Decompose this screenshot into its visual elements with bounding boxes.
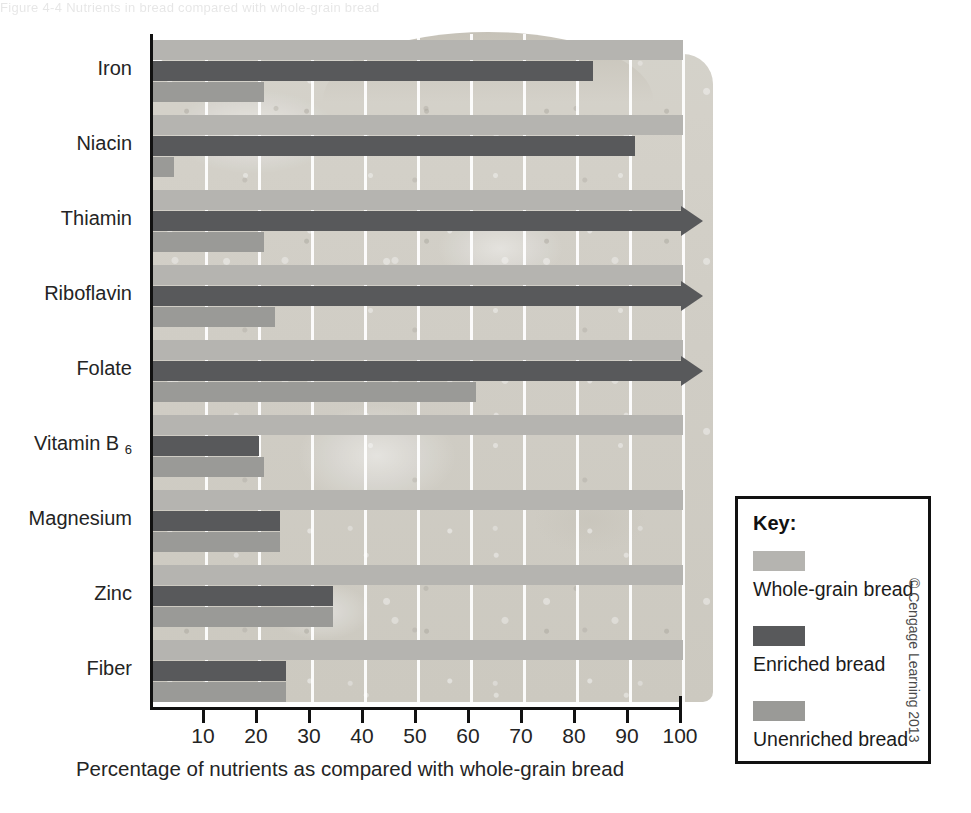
- bar-zinc-enriched-bread: [153, 586, 333, 606]
- bar-iron-whole-grain-bread: [153, 40, 683, 60]
- bar-vitamin-b6-unenriched-bread: [153, 457, 264, 477]
- x-tick-100: [679, 710, 682, 723]
- copyright-credit: © Cengage Learning 2013: [906, 578, 922, 742]
- legend-swatch-whole-grain: [753, 551, 805, 571]
- legend-swatch-enriched: [753, 626, 805, 646]
- category-label-niacin: Niacin: [76, 132, 132, 155]
- bar-iron-enriched-bread: [153, 61, 593, 81]
- x-tick-40: [361, 710, 364, 723]
- bar-thiamin-whole-grain-bread: [153, 190, 683, 210]
- legend-label-enriched: Enriched bread: [753, 653, 923, 676]
- x-tick-label-90: 90: [615, 724, 638, 748]
- x-axis-title: Percentage of nutrients as compared with…: [0, 757, 700, 781]
- x-tick-label-80: 80: [562, 724, 585, 748]
- bar-fiber-enriched-bread: [153, 661, 286, 681]
- legend-item-enriched-bread[interactable]: Enriched bread: [753, 626, 923, 676]
- x-tick-90: [626, 710, 629, 723]
- legend-label-whole-grain: Whole-grain bread: [753, 578, 923, 601]
- bar-riboflavin-unenriched-bread: [153, 307, 275, 327]
- bar-arrowhead-riboflavin: [681, 281, 703, 311]
- bar-thiamin-enriched-bread: [153, 211, 683, 231]
- x-tick-label-10: 10: [191, 724, 214, 748]
- bar-fiber-whole-grain-bread: [153, 640, 683, 660]
- x-tick-50: [414, 710, 417, 723]
- bar-thiamin-unenriched-bread: [153, 232, 264, 252]
- x-tick-80: [573, 710, 576, 723]
- bar-group-iron: [153, 34, 853, 109]
- category-label-thiamin: Thiamin: [61, 207, 132, 230]
- bar-niacin-unenriched-bread: [153, 157, 174, 177]
- legend-item-whole-grain-bread[interactable]: Whole-grain bread: [753, 551, 923, 601]
- bar-niacin-enriched-bread: [153, 136, 635, 156]
- x-tick-10: [202, 710, 205, 723]
- x-axis-right-cap: [679, 696, 682, 710]
- x-tick-label-100: 100: [662, 724, 697, 748]
- bar-riboflavin-enriched-bread: [153, 286, 683, 306]
- bar-riboflavin-whole-grain-bread: [153, 265, 683, 285]
- x-tick-label-60: 60: [456, 724, 479, 748]
- category-label-iron: Iron: [98, 57, 132, 80]
- bar-group-niacin: [153, 109, 853, 184]
- category-label-fiber: Fiber: [86, 657, 132, 680]
- bar-group-riboflavin: [153, 259, 853, 334]
- legend-box: Key: Whole-grain bread Enriched bread Un…: [735, 496, 931, 764]
- bar-magnesium-enriched-bread: [153, 511, 280, 531]
- bar-arrowhead-thiamin: [681, 206, 703, 236]
- bar-folate-enriched-bread: [153, 361, 683, 381]
- bar-group-folate: [153, 334, 853, 409]
- x-tick-70: [520, 710, 523, 723]
- legend-title: Key:: [753, 512, 796, 535]
- bar-vitamin-b6-whole-grain-bread: [153, 415, 683, 435]
- bar-folate-unenriched-bread: [153, 382, 476, 402]
- bar-magnesium-unenriched-bread: [153, 532, 280, 552]
- y-axis-line: [150, 34, 153, 710]
- figure-caption-sliver: Figure 4-4 Nutrients in bread compared w…: [0, 0, 971, 16]
- bar-iron-unenriched-bread: [153, 82, 264, 102]
- bar-group-thiamin: [153, 184, 853, 259]
- bar-fiber-unenriched-bread: [153, 682, 286, 702]
- bar-zinc-whole-grain-bread: [153, 565, 683, 585]
- bar-niacin-whole-grain-bread: [153, 115, 683, 135]
- bar-folate-whole-grain-bread: [153, 340, 683, 360]
- category-label-zinc: Zinc: [94, 582, 132, 605]
- x-tick-30: [308, 710, 311, 723]
- bar-magnesium-whole-grain-bread: [153, 490, 683, 510]
- x-tick-label-40: 40: [350, 724, 373, 748]
- bar-zinc-unenriched-bread: [153, 607, 333, 627]
- x-axis-tick-labels: 102030405060708090100: [150, 724, 720, 754]
- bar-arrowhead-folate: [681, 356, 703, 386]
- legend-swatch-unenriched: [753, 701, 805, 721]
- category-label-riboflavin: Riboflavin: [44, 282, 132, 305]
- x-axis-left-cap: [150, 696, 153, 710]
- category-label-magnesium: Magnesium: [29, 507, 132, 530]
- x-tick-label-20: 20: [244, 724, 267, 748]
- category-axis-labels: IronNiacinThiaminRiboflavinFolateVitamin…: [0, 34, 142, 710]
- chart-plot-area: [150, 34, 680, 710]
- legend-item-unenriched-bread[interactable]: Unenriched bread: [753, 701, 923, 751]
- bar-vitamin-b6-enriched-bread: [153, 436, 259, 456]
- bar-group-vitamin-b6: [153, 408, 853, 483]
- legend-label-unenriched: Unenriched bread: [753, 728, 923, 751]
- x-tick-label-50: 50: [403, 724, 426, 748]
- category-label-folate: Folate: [76, 357, 132, 380]
- x-tick-60: [467, 710, 470, 723]
- x-tick-20: [255, 710, 258, 723]
- category-label-vitamin-b6: Vitamin B 6: [34, 432, 132, 455]
- x-tick-label-30: 30: [297, 724, 320, 748]
- x-tick-label-70: 70: [509, 724, 532, 748]
